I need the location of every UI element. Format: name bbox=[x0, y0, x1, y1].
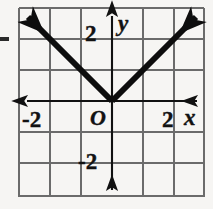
y-axis-tick-label-neg2: -2 bbox=[78, 150, 97, 173]
y-axis-tick-label-2: 2 bbox=[85, 22, 97, 45]
math-figure: 2 y -2 -2 O 2 x bbox=[0, 0, 213, 209]
x-axis-tick-label-neg2: -2 bbox=[22, 108, 41, 131]
y-axis-name-label: y bbox=[118, 12, 128, 35]
x-axis-tick-label-2: 2 bbox=[162, 108, 174, 131]
origin-label: O bbox=[90, 107, 106, 129]
coordinate-plane bbox=[0, 0, 213, 209]
x-axis-name-label: x bbox=[184, 106, 196, 129]
